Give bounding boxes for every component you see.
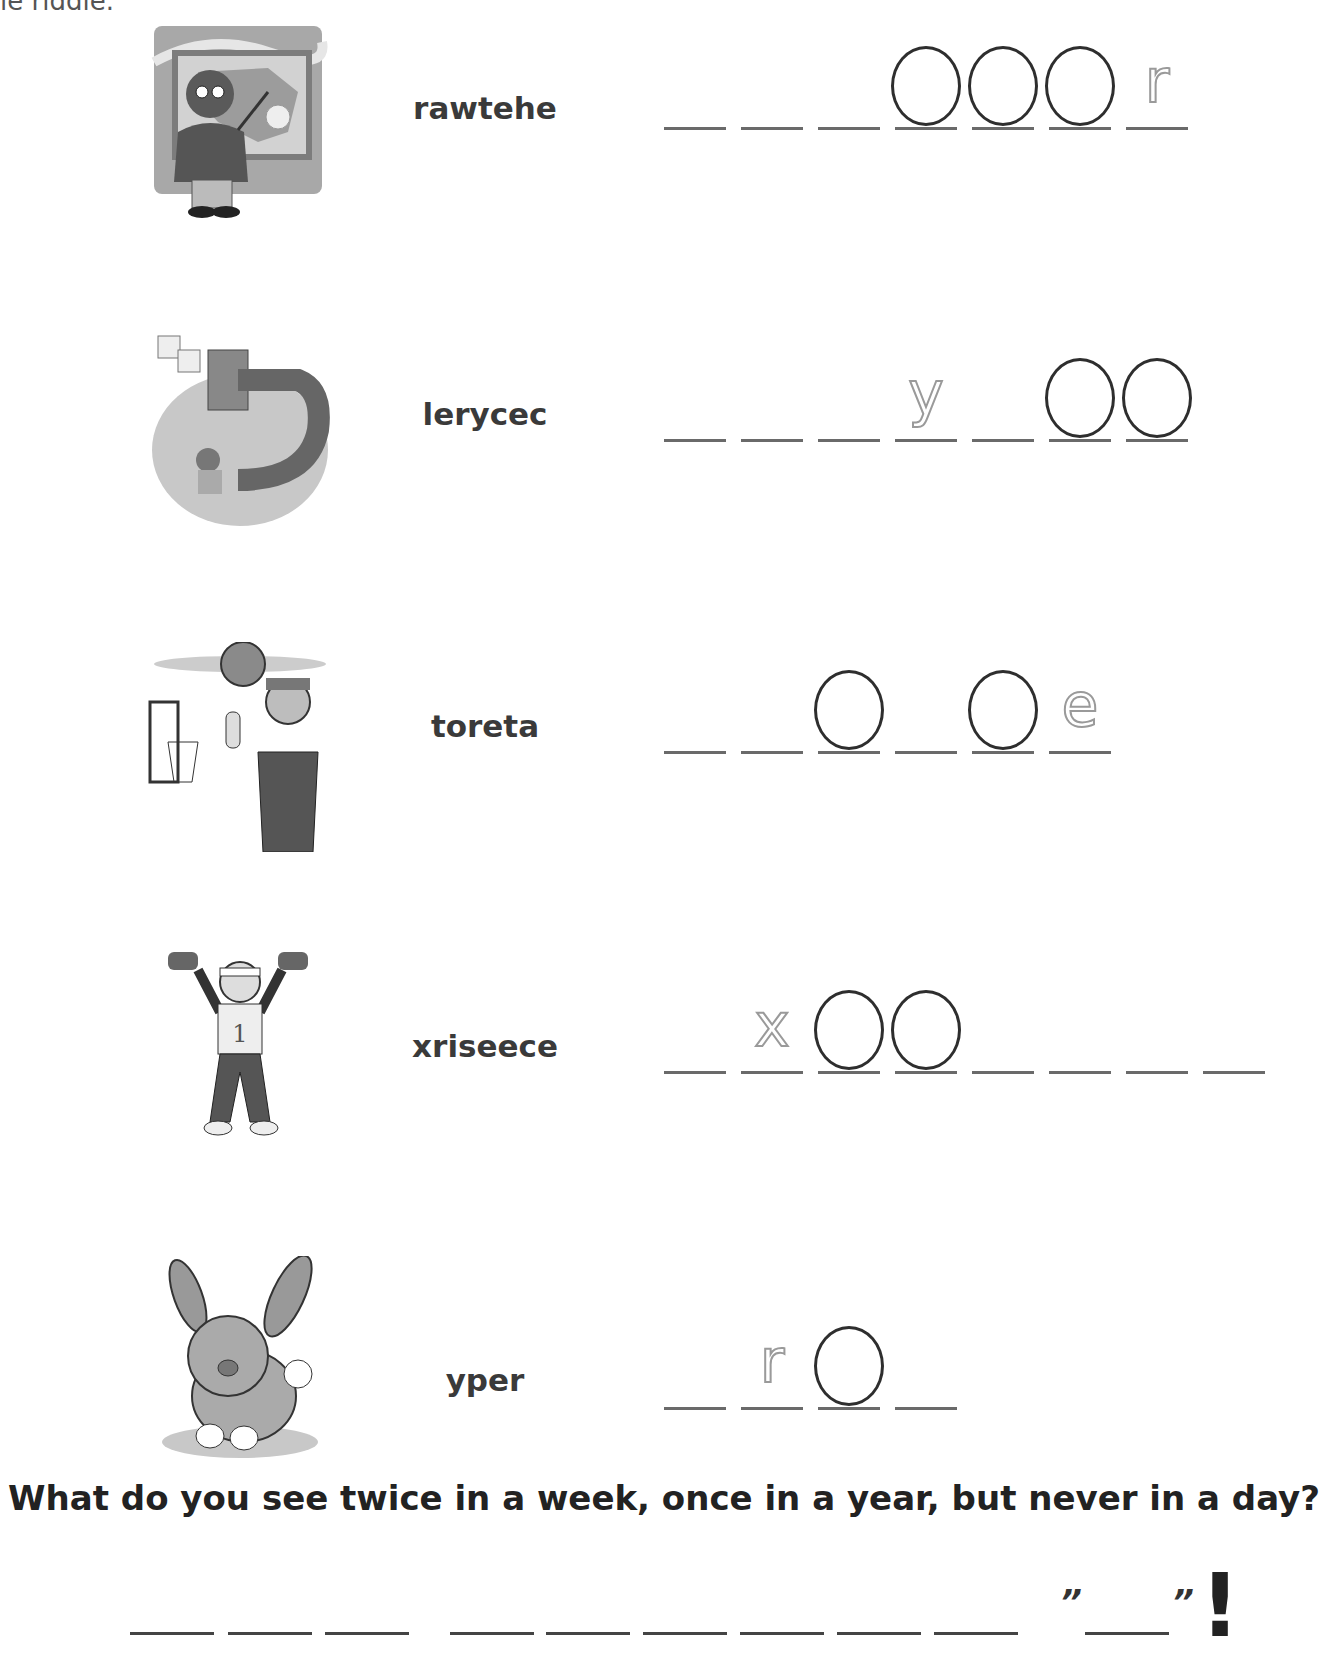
- answer-blank[interactable]: [546, 1632, 630, 1635]
- letter-blank[interactable]: [664, 1300, 726, 1410]
- answer-blank[interactable]: [643, 1632, 727, 1635]
- hint-letter-blank[interactable]: x: [741, 964, 803, 1074]
- answer-blank[interactable]: [130, 1632, 214, 1635]
- scrambled-word: yper: [400, 1362, 570, 1398]
- rabbit-picture: [148, 1256, 332, 1456]
- circled-letter-blank[interactable]: [1126, 332, 1188, 442]
- open-quote: ”: [1060, 1582, 1082, 1622]
- svg-text:1: 1: [232, 1020, 247, 1048]
- scrambled-word: lerycec: [400, 396, 570, 432]
- recycling-picture: [148, 330, 332, 530]
- circled-letter-blank[interactable]: [895, 20, 957, 130]
- puzzle-row-4: 1 xriseece x: [0, 920, 1328, 1150]
- answer-blank[interactable]: [325, 1632, 409, 1635]
- hint-letter-blank[interactable]: e: [1049, 644, 1111, 754]
- letter-blank[interactable]: [895, 1300, 957, 1410]
- letter-blank[interactable]: [664, 20, 726, 130]
- scrambled-word: xriseece: [400, 1028, 570, 1064]
- letter-blank[interactable]: [818, 20, 880, 130]
- hint-letter-blank[interactable]: r: [1126, 20, 1188, 130]
- letter-blank[interactable]: [895, 644, 957, 754]
- weatherman-picture: [148, 22, 332, 222]
- answer-blank[interactable]: [740, 1632, 824, 1635]
- puzzle-row-3: toreta e: [0, 632, 1328, 862]
- letter-blank[interactable]: [972, 332, 1034, 442]
- circled-letter-blank[interactable]: [1049, 332, 1111, 442]
- letter-blank[interactable]: [1049, 964, 1111, 1074]
- circled-letter-blank[interactable]: [818, 964, 880, 1074]
- circled-letter-blank[interactable]: [972, 644, 1034, 754]
- circled-letter-blank[interactable]: [818, 1300, 880, 1410]
- scrambled-word: rawtehe: [400, 90, 570, 126]
- letter-blank[interactable]: [972, 964, 1034, 1074]
- hint-letter-blank[interactable]: r: [741, 1300, 803, 1410]
- circled-letter-blank[interactable]: [1049, 20, 1111, 130]
- circled-letter-blank[interactable]: [972, 20, 1034, 130]
- letter-blank[interactable]: [741, 20, 803, 130]
- riddle-question: What do you see twice in a week, once in…: [0, 1478, 1328, 1518]
- circled-letter-blank[interactable]: [818, 644, 880, 754]
- answer-blank[interactable]: [450, 1632, 534, 1635]
- letter-blank[interactable]: [664, 332, 726, 442]
- close-quote: ”: [1172, 1582, 1194, 1622]
- letter-blank[interactable]: [664, 964, 726, 1074]
- answer-blank[interactable]: [934, 1632, 1018, 1635]
- riddle-answer-area: ” ” !: [0, 1560, 1328, 1650]
- basketball-player-picture: [148, 642, 332, 842]
- exclamation-mark: !: [1200, 1554, 1240, 1655]
- puzzle-row-2: lerycec y: [0, 320, 1328, 550]
- letter-blank[interactable]: [741, 644, 803, 754]
- letter-blank[interactable]: [1203, 964, 1265, 1074]
- letter-blank[interactable]: [741, 332, 803, 442]
- scrambled-word: toreta: [400, 708, 570, 744]
- answer-blank[interactable]: [228, 1632, 312, 1635]
- letter-blank[interactable]: [664, 644, 726, 754]
- puzzle-row-1: rawtehe r: [0, 10, 1328, 240]
- quoted-answer-blank[interactable]: [1085, 1632, 1169, 1635]
- puzzle-row-5: yper r: [0, 1234, 1328, 1464]
- letter-blank[interactable]: [1126, 964, 1188, 1074]
- answer-blank[interactable]: [837, 1632, 921, 1635]
- hint-letter-blank[interactable]: y: [895, 332, 957, 442]
- circled-letter-blank[interactable]: [895, 964, 957, 1074]
- weightlifter-picture: 1: [148, 932, 332, 1132]
- letter-blank[interactable]: [818, 332, 880, 442]
